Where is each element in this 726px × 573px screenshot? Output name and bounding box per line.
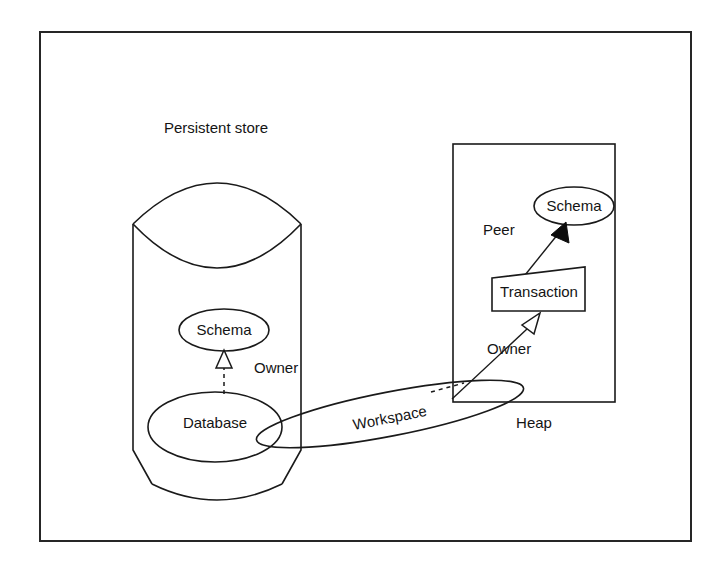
owner-db-hollow-arrowhead xyxy=(216,350,232,368)
node-transaction[interactable]: Transaction xyxy=(492,267,585,311)
node-database[interactable]: Database xyxy=(148,392,282,462)
persistent-store-top-arc-upper xyxy=(133,183,301,224)
schema-heap-label: Schema xyxy=(546,197,602,214)
schema-store-label: Schema xyxy=(196,321,252,338)
owner-db-edge-label: Owner xyxy=(254,359,298,376)
heap-label: Heap xyxy=(516,414,552,431)
node-schema-store[interactable]: Schema xyxy=(179,309,269,351)
node-workspace[interactable]: Workspace xyxy=(252,366,527,461)
node-schema-heap[interactable]: Schema xyxy=(534,187,614,225)
peer-edge-label: Peer xyxy=(483,221,515,238)
persistent-store-label: Persistent store xyxy=(164,119,268,136)
workspace-label: Workspace xyxy=(351,402,428,433)
uml-object-diagram: Persistent store Heap Schema Owner Datab… xyxy=(0,0,726,573)
edge-workspace-owner-transaction[interactable]: Owner xyxy=(431,313,540,399)
owner-ws-edge-label: Owner xyxy=(487,340,531,357)
transaction-label: Transaction xyxy=(500,283,578,300)
persistent-store-bottom-arc xyxy=(152,484,282,500)
edge-database-owner-schema[interactable]: Owner xyxy=(216,350,298,394)
diagram-canvas: Persistent store Heap Schema Owner Datab… xyxy=(0,0,726,573)
persistent-store-top-arc-lower xyxy=(133,224,301,268)
persistent-store-left-wall xyxy=(133,224,152,484)
outer-frame xyxy=(40,32,691,541)
persistent-store-right-wall xyxy=(282,224,301,484)
database-label: Database xyxy=(183,414,247,431)
